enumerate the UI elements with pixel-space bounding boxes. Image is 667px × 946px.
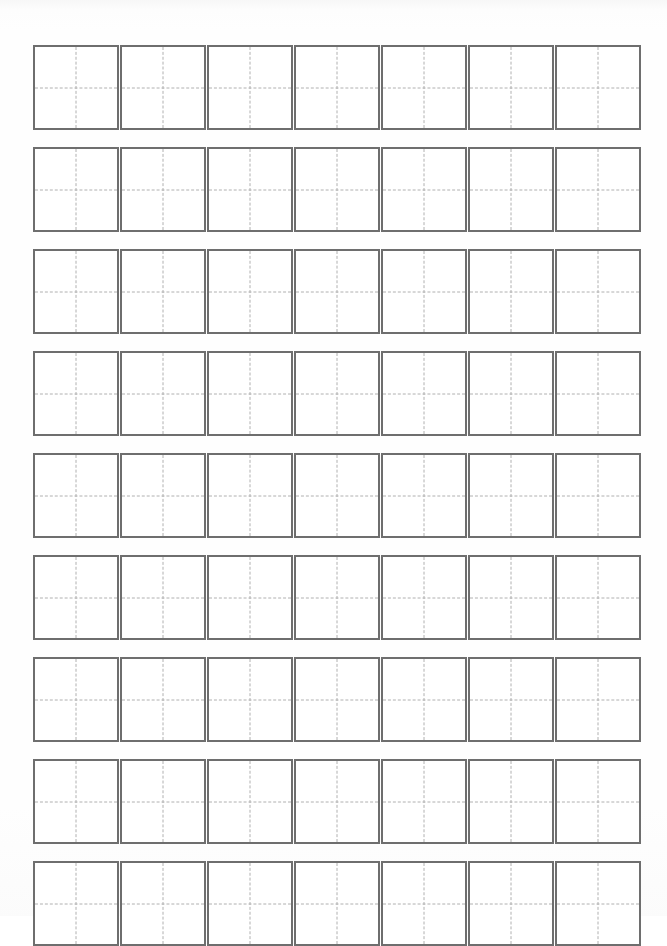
- cell-writing-area[interactable]: [35, 557, 117, 638]
- cell-writing-area[interactable]: [296, 455, 378, 536]
- practice-cell[interactable]: [468, 861, 554, 946]
- practice-cell[interactable]: [381, 453, 467, 538]
- cell-writing-area[interactable]: [122, 353, 204, 434]
- practice-cell[interactable]: [207, 657, 293, 742]
- practice-cell[interactable]: [381, 861, 467, 946]
- cell-writing-area[interactable]: [470, 149, 552, 230]
- practice-cell[interactable]: [294, 555, 380, 640]
- cell-writing-area[interactable]: [557, 761, 639, 842]
- practice-cell[interactable]: [120, 555, 206, 640]
- cell-writing-area[interactable]: [35, 455, 117, 536]
- cell-writing-area[interactable]: [383, 149, 465, 230]
- cell-writing-area[interactable]: [470, 251, 552, 332]
- cell-writing-area[interactable]: [296, 863, 378, 944]
- cell-writing-area[interactable]: [209, 353, 291, 434]
- practice-cell[interactable]: [33, 351, 119, 436]
- practice-cell[interactable]: [33, 147, 119, 232]
- cell-writing-area[interactable]: [557, 863, 639, 944]
- practice-cell[interactable]: [294, 657, 380, 742]
- practice-cell[interactable]: [555, 657, 641, 742]
- cell-writing-area[interactable]: [557, 455, 639, 536]
- practice-cell[interactable]: [207, 147, 293, 232]
- cell-writing-area[interactable]: [122, 761, 204, 842]
- cell-writing-area[interactable]: [383, 455, 465, 536]
- practice-cell[interactable]: [381, 555, 467, 640]
- practice-cell[interactable]: [120, 759, 206, 844]
- cell-writing-area[interactable]: [209, 761, 291, 842]
- practice-cell[interactable]: [33, 45, 119, 130]
- cell-writing-area[interactable]: [470, 761, 552, 842]
- practice-cell[interactable]: [207, 45, 293, 130]
- cell-writing-area[interactable]: [122, 47, 204, 128]
- cell-writing-area[interactable]: [35, 761, 117, 842]
- cell-writing-area[interactable]: [296, 251, 378, 332]
- practice-cell[interactable]: [468, 249, 554, 334]
- cell-writing-area[interactable]: [383, 761, 465, 842]
- practice-cell[interactable]: [294, 759, 380, 844]
- cell-writing-area[interactable]: [209, 659, 291, 740]
- cell-writing-area[interactable]: [557, 251, 639, 332]
- practice-cell[interactable]: [555, 861, 641, 946]
- practice-cell[interactable]: [468, 657, 554, 742]
- practice-cell[interactable]: [33, 453, 119, 538]
- cell-writing-area[interactable]: [296, 659, 378, 740]
- practice-cell[interactable]: [33, 555, 119, 640]
- cell-writing-area[interactable]: [383, 353, 465, 434]
- practice-cell[interactable]: [468, 759, 554, 844]
- practice-cell[interactable]: [468, 147, 554, 232]
- practice-cell[interactable]: [381, 759, 467, 844]
- practice-cell[interactable]: [468, 555, 554, 640]
- practice-cell[interactable]: [555, 147, 641, 232]
- cell-writing-area[interactable]: [122, 659, 204, 740]
- practice-cell[interactable]: [294, 147, 380, 232]
- practice-cell[interactable]: [294, 351, 380, 436]
- cell-writing-area[interactable]: [35, 863, 117, 944]
- practice-cell[interactable]: [207, 759, 293, 844]
- cell-writing-area[interactable]: [122, 863, 204, 944]
- practice-cell[interactable]: [33, 657, 119, 742]
- practice-cell[interactable]: [294, 249, 380, 334]
- cell-writing-area[interactable]: [35, 47, 117, 128]
- cell-writing-area[interactable]: [122, 455, 204, 536]
- cell-writing-area[interactable]: [383, 557, 465, 638]
- practice-cell[interactable]: [120, 249, 206, 334]
- practice-cell[interactable]: [555, 249, 641, 334]
- cell-writing-area[interactable]: [296, 557, 378, 638]
- practice-cell[interactable]: [207, 351, 293, 436]
- practice-cell[interactable]: [33, 249, 119, 334]
- practice-cell[interactable]: [207, 249, 293, 334]
- cell-writing-area[interactable]: [35, 251, 117, 332]
- practice-cell[interactable]: [555, 453, 641, 538]
- practice-cell[interactable]: [294, 453, 380, 538]
- practice-cell[interactable]: [294, 861, 380, 946]
- cell-writing-area[interactable]: [383, 863, 465, 944]
- practice-cell[interactable]: [555, 555, 641, 640]
- cell-writing-area[interactable]: [470, 455, 552, 536]
- cell-writing-area[interactable]: [209, 149, 291, 230]
- practice-cell[interactable]: [207, 555, 293, 640]
- cell-writing-area[interactable]: [296, 47, 378, 128]
- cell-writing-area[interactable]: [209, 557, 291, 638]
- cell-writing-area[interactable]: [383, 251, 465, 332]
- practice-cell[interactable]: [468, 45, 554, 130]
- cell-writing-area[interactable]: [35, 353, 117, 434]
- practice-cell[interactable]: [381, 657, 467, 742]
- practice-cell[interactable]: [468, 453, 554, 538]
- cell-writing-area[interactable]: [122, 149, 204, 230]
- cell-writing-area[interactable]: [557, 557, 639, 638]
- practice-cell[interactable]: [381, 249, 467, 334]
- cell-writing-area[interactable]: [557, 659, 639, 740]
- practice-cell[interactable]: [33, 759, 119, 844]
- cell-writing-area[interactable]: [296, 761, 378, 842]
- cell-writing-area[interactable]: [557, 149, 639, 230]
- cell-writing-area[interactable]: [557, 353, 639, 434]
- practice-cell[interactable]: [120, 45, 206, 130]
- cell-writing-area[interactable]: [470, 659, 552, 740]
- cell-writing-area[interactable]: [296, 149, 378, 230]
- practice-cell[interactable]: [468, 351, 554, 436]
- practice-cell[interactable]: [555, 759, 641, 844]
- practice-cell[interactable]: [33, 861, 119, 946]
- cell-writing-area[interactable]: [557, 47, 639, 128]
- practice-cell[interactable]: [555, 351, 641, 436]
- practice-cell[interactable]: [555, 45, 641, 130]
